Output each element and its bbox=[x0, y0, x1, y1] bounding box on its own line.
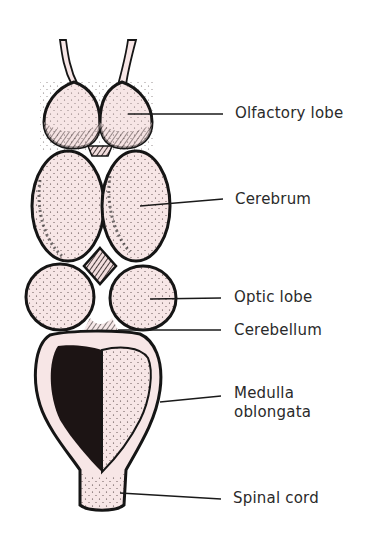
label-spinal-cord: Spinal cord bbox=[233, 490, 319, 507]
leader-spinal bbox=[120, 493, 221, 499]
leader-optic bbox=[150, 298, 221, 299]
cerebellum bbox=[84, 318, 118, 330]
brain-diagram bbox=[0, 0, 377, 533]
olfactory-nerves bbox=[60, 40, 136, 85]
medulla-oblongata bbox=[35, 331, 160, 510]
label-cerebellum: Cerebellum bbox=[234, 322, 322, 339]
label-olfactory-lobe: Olfactory lobe bbox=[235, 105, 343, 122]
label-cerebrum: Cerebrum bbox=[235, 191, 311, 208]
olfactory-lobes bbox=[40, 80, 155, 150]
label-optic-lobe: Optic lobe bbox=[234, 289, 313, 306]
label-oblongata: oblongata bbox=[234, 404, 311, 421]
leader-medulla bbox=[160, 396, 221, 402]
label-medulla: Medulla bbox=[234, 385, 294, 402]
olfactory-junction bbox=[88, 146, 112, 156]
